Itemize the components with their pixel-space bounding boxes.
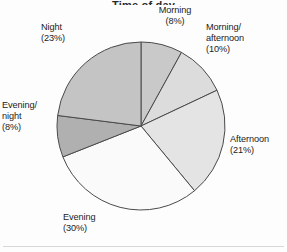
pie-label-morning-afternoon: Morning/ afternoon (10%) (206, 22, 284, 56)
pie-label-morning: Morning (8%) (150, 5, 200, 27)
pie-slices-group (57, 42, 225, 210)
figure-bottom-rule (3, 246, 284, 247)
pie-label-afternoon: Afternoon (21%) (230, 134, 286, 156)
pie-chart-figure: Time of day Morning (8%) Morning/ aftern… (0, 0, 287, 252)
pie-slice-night (58, 42, 141, 126)
pie-label-evening-night: Evening/ night (8%) (2, 100, 58, 134)
pie-label-night: Night (23%) (41, 22, 91, 44)
pie-label-evening: Evening (30%) (63, 212, 123, 234)
